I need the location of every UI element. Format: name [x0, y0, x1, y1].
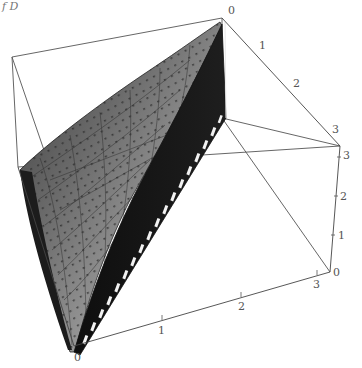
vertical-axis: 0 1 2 3	[331, 149, 350, 279]
corner-label: f D	[1, 0, 19, 13]
svg-text:2: 2	[293, 77, 300, 90]
surface	[20, 22, 222, 352]
svg-text:2: 2	[340, 190, 347, 203]
svg-text:1: 1	[158, 324, 165, 337]
svg-text:3: 3	[313, 278, 320, 291]
svg-text:3: 3	[332, 123, 339, 136]
surface-plot: f D	[0, 0, 362, 368]
svg-text:0: 0	[228, 4, 235, 17]
svg-text:2: 2	[238, 300, 245, 313]
top-right-axis: 0 1 2 3	[228, 4, 339, 136]
svg-text:3: 3	[343, 149, 350, 162]
svg-text:0: 0	[333, 266, 340, 279]
svg-text:1: 1	[338, 229, 345, 242]
svg-text:0: 0	[74, 351, 81, 364]
svg-text:1: 1	[259, 39, 266, 52]
